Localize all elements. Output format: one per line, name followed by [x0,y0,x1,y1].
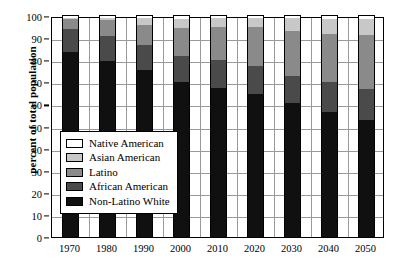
y-tick-mark [44,16,49,17]
bar-segment [210,87,227,237]
y-tick-mark [44,127,49,128]
bar-segment [210,17,227,27]
bar-segment [284,17,301,31]
bar-2010 [210,16,227,237]
legend-swatch [66,139,83,148]
bar-segment [321,18,338,33]
y-tick-label: 50 [32,122,43,133]
legend-item-label: Latino [89,167,118,178]
legend-swatch [66,168,83,177]
legend-item: African American [66,180,170,195]
bar-segment [62,18,79,29]
bar-segment [99,15,116,18]
bar-segment [173,55,190,83]
y-tick-mark [44,39,49,40]
bar-2020 [247,16,264,237]
bar-segment [210,59,227,88]
bar-segment [284,102,301,237]
y-tick-mark [44,61,49,62]
bar-segment [173,15,190,19]
legend-item-label: Non-Latino White [89,196,170,207]
y-tick-label: 80 [32,56,43,67]
legend-item: Native American [66,136,170,151]
y-tick-mark [44,215,49,216]
bar-segment [210,26,227,60]
bar-segment [62,15,79,18]
bar-segment [321,111,338,237]
y-tick-label: 70 [32,78,43,89]
legend-item-label: Asian American [89,152,160,163]
bar-segment [358,15,375,19]
legend-swatch [66,197,83,206]
bar-segment [358,34,375,89]
stacked-bar-chart: percent of total population 010203040506… [0,0,394,277]
bar-segment [358,18,375,34]
bar-segment [99,35,116,61]
bar-2050 [358,16,375,237]
legend-item-label: Native American [89,138,164,149]
bar-segment [284,15,301,18]
bar-segment [284,30,301,75]
y-tick-label: 10 [32,210,43,221]
y-tick-mark [44,171,49,172]
y-tick-mark [44,193,49,194]
legend-item: Asian American [66,151,170,166]
bar-segment [321,15,338,19]
x-tick-label-2050: 2050 [339,243,393,254]
bar-segment [358,119,375,237]
bar-segment [210,15,227,18]
legend-swatch [66,182,83,191]
bar-segment [247,93,264,237]
legend-item: Non-Latino White [66,194,170,209]
bar-segment [173,27,190,56]
bar-segment [321,81,338,112]
y-tick-mark [44,83,49,84]
bar-segment [358,88,375,120]
y-axis-ticks: 0102030405060708090100 [0,17,46,238]
bar-segment [284,75,301,104]
bar-2040 [321,16,338,237]
bar-segment [247,26,264,66]
legend: Native AmericanAsian AmericanLatinoAfric… [60,131,178,214]
bar-segment [62,28,79,52]
bar-segment [247,15,264,18]
y-tick-mark [44,105,49,106]
bar-2030 [284,16,301,237]
y-tick-label: 60 [32,100,43,111]
bar-segment [321,33,338,83]
bar-segment [136,44,153,70]
y-tick-label: 40 [32,144,43,155]
y-tick-label: 90 [32,34,43,45]
legend-item-label: African American [89,181,168,192]
bar-segment [136,15,153,18]
y-tick-mark [44,237,49,238]
bar-segment [247,17,264,27]
y-tick-label: 100 [26,12,42,23]
y-tick-label: 20 [32,188,43,199]
bar-segment [99,19,116,35]
legend-item: Latino [66,165,170,180]
bar-segment [136,17,153,25]
bar-segment [173,18,190,28]
bar-segment [136,24,153,45]
bar-segment [247,65,264,95]
legend-swatch [66,153,83,162]
y-tick-label: 30 [32,166,43,177]
y-tick-label: 0 [37,233,42,244]
y-tick-mark [44,149,49,150]
